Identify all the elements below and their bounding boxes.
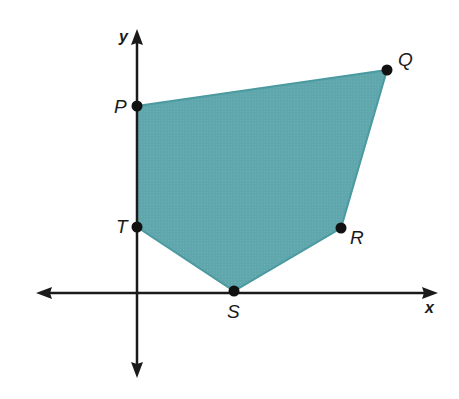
polygon-pqrst xyxy=(137,70,387,291)
vertex-p xyxy=(132,101,143,112)
label-r: R xyxy=(350,227,364,248)
x-axis-right-arrow xyxy=(422,287,438,299)
y-axis-down-arrow xyxy=(131,362,143,378)
label-x-axis: x xyxy=(424,299,435,316)
vertex-q xyxy=(382,65,393,76)
label-p: P xyxy=(114,96,127,117)
vertex-r xyxy=(336,223,347,234)
label-y-axis: y xyxy=(118,28,129,45)
vertex-s xyxy=(229,286,240,297)
x-axis-left-arrow xyxy=(36,287,52,299)
label-q: Q xyxy=(398,49,413,70)
coordinate-plane: P Q R S T x y xyxy=(0,0,459,399)
y-axis-up-arrow xyxy=(131,29,143,45)
vertex-t xyxy=(132,222,143,233)
label-s: S xyxy=(227,301,240,322)
label-t: T xyxy=(116,216,129,237)
